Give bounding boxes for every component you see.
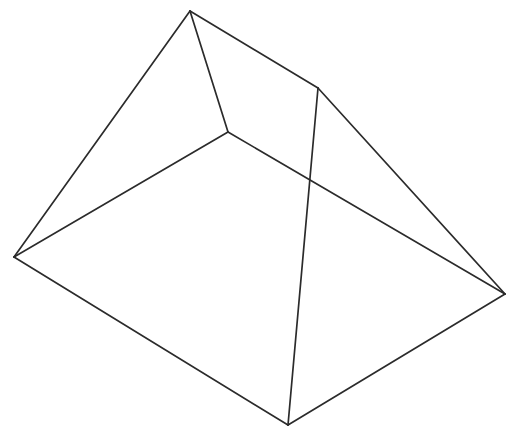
figure-background: [0, 0, 518, 435]
pyramid-figure: Pyramid wireframe line drawing: [0, 0, 518, 435]
